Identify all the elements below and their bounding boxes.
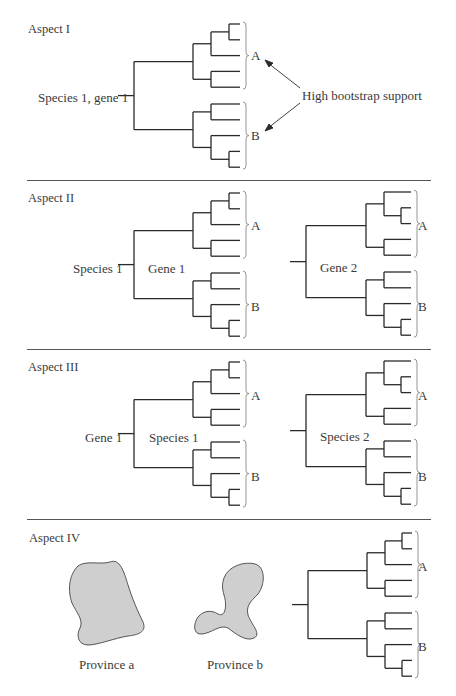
separator-2 [27, 349, 431, 350]
aspect-4-clade-a-label: A [418, 560, 427, 573]
arrow-to-a [268, 63, 300, 88]
bootstrap-annotation: High bootstrap support [302, 89, 422, 102]
aspect-3-left-clade-a-label: A [251, 389, 260, 402]
aspect-4-title: Aspect IV [29, 532, 80, 545]
gene-2-label: Gene 2 [320, 261, 357, 274]
aspect-2-right-clade-a-label: A [418, 219, 427, 232]
arrow-to-b [268, 103, 300, 128]
aspect-2-title: Aspect II [28, 192, 74, 205]
aspect-1-clade-a-label: A [251, 49, 260, 62]
province-b-label: Province b [207, 658, 263, 671]
separator-3 [27, 519, 431, 520]
province-a-shape [70, 561, 144, 645]
aspect-1-root-label: Species 1, gene 1 [38, 91, 128, 104]
aspect-3-right-clade-b-label: B [418, 470, 427, 483]
aspect-3-right-clade-a-label: A [418, 389, 427, 402]
aspect-1-title: Aspect I [28, 23, 70, 36]
aspect-3-title: Aspect III [28, 361, 78, 374]
species-2-label: Species 2 [320, 430, 369, 443]
aspect-1-clade-b-label: B [251, 129, 260, 142]
gene-1-label: Gene 1 [148, 262, 185, 275]
bootstrap-arrows [265, 60, 300, 131]
aspect-2-left-clade-b-label: B [251, 300, 260, 313]
aspect-2-right-clade-b-label: B [418, 300, 427, 313]
aspect-4-clade-b-label: B [418, 640, 427, 653]
province-b-shape [195, 563, 264, 639]
separator-1 [27, 180, 431, 181]
aspect-2-left-clade-a-label: A [251, 219, 260, 232]
aspect-2-root-label: Species 1 [73, 262, 122, 275]
province-a-label: Province a [79, 658, 134, 671]
species-1-label: Species 1 [149, 431, 198, 444]
aspect-3-left-clade-b-label: B [251, 470, 260, 483]
tree-lines [118, 22, 421, 678]
aspect-3-root-label: Gene 1 [85, 431, 122, 444]
